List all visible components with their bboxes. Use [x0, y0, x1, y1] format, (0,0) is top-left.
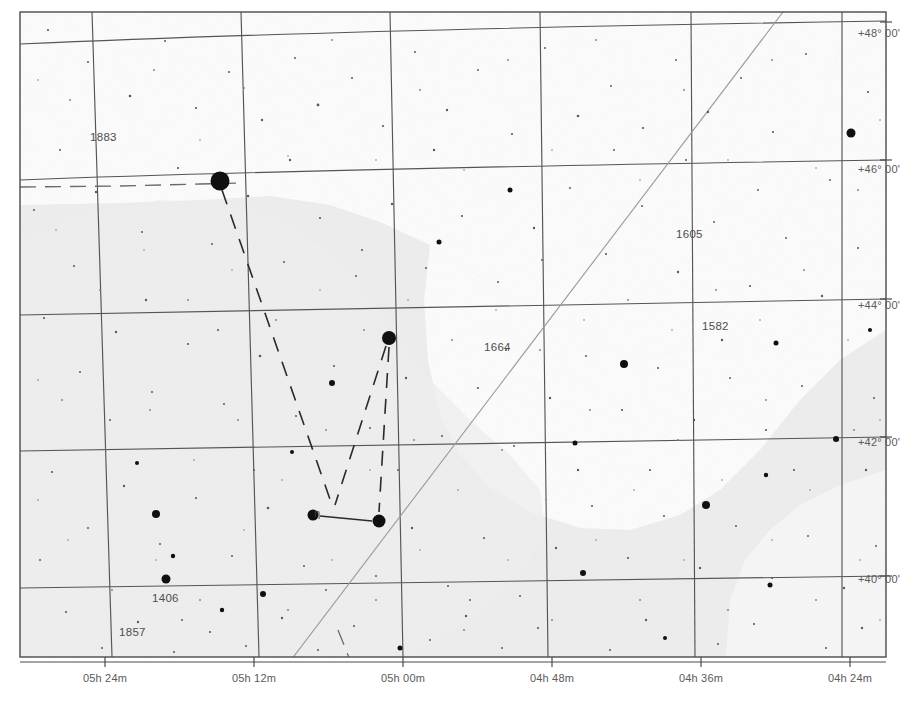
- star-major-22: [663, 636, 667, 640]
- star-major-3: [373, 515, 386, 528]
- star-major-5: [847, 129, 856, 138]
- ra-tick-label-4: 04h 36m: [679, 672, 723, 684]
- star-major-16: [573, 441, 578, 446]
- star-major-20: [135, 461, 139, 465]
- star-major-12: [580, 570, 586, 576]
- object-label-1406[interactable]: 1406: [152, 592, 179, 604]
- dec-tick-label-2: +44° 00': [858, 299, 900, 311]
- star-major-14: [437, 240, 442, 245]
- star-major-13: [329, 380, 335, 386]
- ra-tick-label-5: 04h 24m: [828, 672, 872, 684]
- star-major-18: [398, 646, 403, 651]
- greek-label-eta: η: [314, 508, 320, 519]
- dec-tick-label-0: +48° 00': [858, 27, 900, 39]
- object-label-1582[interactable]: 1582: [702, 320, 729, 332]
- sky-map[interactable]: [0, 0, 921, 704]
- sky-background: [20, 12, 886, 668]
- star-chart: 05h 24m 05h 12m 05h 00m 04h 48m 04h 36m …: [0, 0, 921, 704]
- star-major-15: [508, 188, 513, 193]
- ra-tick-label-3: 04h 48m: [530, 672, 574, 684]
- star-major-24: [171, 554, 175, 558]
- ra-tick-label-1: 05h 12m: [232, 672, 276, 684]
- dec-tick-label-1: +46° 00': [858, 163, 900, 175]
- star-major-6: [620, 360, 628, 368]
- dec-tick-label-4: +40° 00': [858, 573, 900, 585]
- star-major-2: [382, 331, 396, 345]
- star-major-26: [764, 473, 768, 477]
- star-major-19: [768, 583, 773, 588]
- star-major-1: [211, 172, 230, 191]
- object-label-1857[interactable]: 1857: [119, 626, 146, 638]
- ra-tick-label-2: 05h 00m: [381, 672, 425, 684]
- star-major-11: [260, 591, 266, 597]
- star-major-9: [702, 501, 710, 509]
- star-major-23: [868, 328, 872, 332]
- object-label-1664[interactable]: 1664: [484, 341, 511, 353]
- ra-tick-label-0: 05h 24m: [83, 672, 127, 684]
- object-label-1605[interactable]: 1605: [676, 228, 703, 240]
- star-major-25: [220, 608, 224, 612]
- star-major-7: [162, 575, 171, 584]
- star-major-10: [833, 436, 839, 442]
- star-major-21: [290, 450, 294, 454]
- star-major-17: [774, 341, 779, 346]
- star-major-8: [152, 510, 160, 518]
- ra-axis-ticks: [20, 657, 886, 667]
- dec-tick-label-3: +42° 00': [858, 436, 900, 448]
- object-label-1883[interactable]: 1883: [90, 131, 117, 143]
